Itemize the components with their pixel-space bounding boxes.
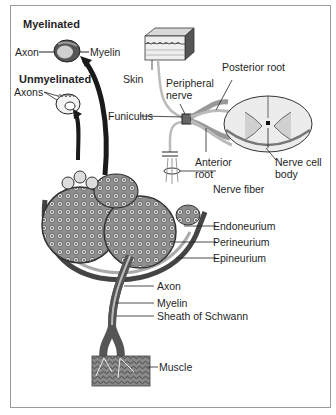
- label-myelinated: Myelinated: [23, 18, 80, 30]
- nerve-anatomy-illustration: [0, 0, 336, 415]
- label-sheath-of-schwann: Sheath of Schwann: [157, 310, 248, 322]
- label-myelin: Myelin: [157, 297, 187, 309]
- label-myelin-top: Myelin: [90, 46, 120, 58]
- label-axon-top: Axon: [15, 46, 39, 58]
- label-nerve-cell-body-1: Nerve cell: [275, 156, 322, 168]
- label-endoneurium: Endoneurium: [213, 220, 275, 232]
- label-peripheral-nerve-1: Peripheral: [166, 77, 214, 89]
- label-axons: Axons: [14, 86, 43, 98]
- label-unmyelinated: Unmyelinated: [19, 73, 91, 85]
- label-perineurium: Perineurium: [213, 236, 270, 248]
- skin-block-icon: [145, 28, 194, 60]
- label-anterior-root-1: Anterior: [195, 156, 232, 168]
- label-peripheral-nerve-2: nerve: [166, 89, 192, 101]
- label-anterior-root-2: root: [195, 168, 213, 180]
- label-skin: Skin: [123, 73, 143, 85]
- label-funiculus: Funiculus: [108, 110, 153, 122]
- label-nerve-fiber: Nerve fiber: [213, 183, 264, 195]
- muscle-tissue-icon: [92, 356, 150, 386]
- label-posterior-root: Posterior root: [222, 61, 285, 73]
- label-muscle: Muscle: [159, 361, 192, 373]
- myelinated-fiber-icon: [54, 40, 80, 62]
- label-epineurium: Epineurium: [213, 252, 266, 264]
- label-nerve-cell-body-2: body: [275, 168, 298, 180]
- label-axon: Axon: [157, 280, 181, 292]
